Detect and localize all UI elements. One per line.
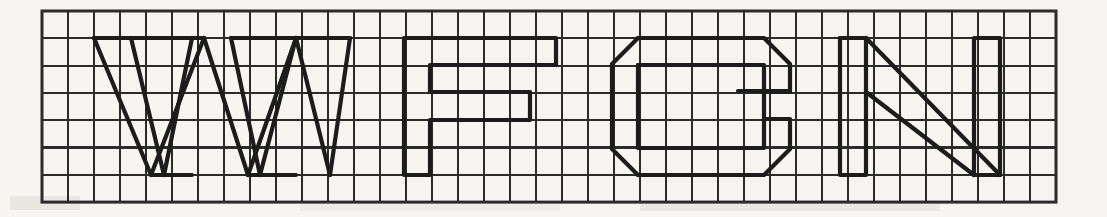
scan-artifacts (0, 0, 1107, 217)
paper-tint (0, 0, 1107, 217)
smudge-bottom-mid (300, 203, 560, 211)
graph-paper-drawing (0, 0, 1107, 217)
screenshot-canvas: Hand-drawn block letters on graph paper … (0, 0, 1107, 217)
